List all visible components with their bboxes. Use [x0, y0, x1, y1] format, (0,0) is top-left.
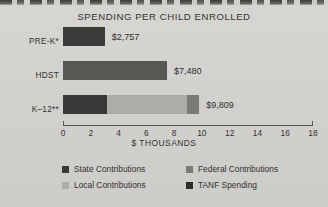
legend-item-federal[interactable]: Federal Contributions: [186, 164, 302, 174]
bar-pre-k[interactable]: [63, 27, 105, 46]
category-label-k-12: K–12**: [32, 105, 59, 114]
bar-value-label: $7,480: [174, 66, 202, 76]
plot-area: $2,757$7,480$9,809 024681012141618: [63, 26, 313, 126]
legend-swatch-tanf-icon: [186, 182, 193, 189]
x-tick-4: 4: [116, 128, 121, 138]
chart-title: SPENDING PER CHILD ENROLLED: [0, 11, 328, 22]
x-tick-0: 0: [61, 128, 66, 138]
x-tick-12: 12: [225, 128, 234, 138]
legend-item-local[interactable]: Local Contributions: [62, 180, 186, 190]
legend-label: Federal Contributions: [198, 164, 278, 174]
legend-label: TANF Spending: [198, 180, 257, 190]
cropped-strip-fade: [0, 0, 328, 6]
x-tick-2: 2: [88, 128, 93, 138]
x-axis-title: $ THOUSANDS: [0, 138, 328, 148]
chart-page: SPENDING PER CHILD ENROLLED $2,757$7,480…: [0, 0, 328, 207]
cropped-content-strip: [0, 0, 328, 6]
x-tick-8: 8: [172, 128, 177, 138]
bar-row: $9,809: [63, 95, 313, 114]
legend-swatch-state-icon: [62, 166, 69, 173]
category-label-pre-k: PRE-K*: [29, 37, 59, 46]
legend-label: State Contributions: [74, 164, 145, 174]
x-tick-10: 10: [197, 128, 206, 138]
x-tick-16: 16: [281, 128, 290, 138]
category-label-hdst: HDST: [36, 71, 60, 80]
x-axis-cap-right: [312, 121, 313, 126]
x-tick-14: 14: [253, 128, 262, 138]
legend-swatch-federal-icon: [186, 166, 193, 173]
legend-item-tanf[interactable]: TANF Spending: [186, 180, 302, 190]
bar-segment-state[interactable]: [63, 95, 107, 114]
x-tick-18: 18: [308, 128, 317, 138]
bar-k-12[interactable]: [63, 95, 199, 114]
bar-segment-hdst[interactable]: [63, 61, 167, 80]
bar-segment-prek[interactable]: [63, 27, 105, 46]
x-tick-6: 6: [144, 128, 149, 138]
bar-segment-local[interactable]: [107, 95, 186, 114]
bar-hdst[interactable]: [63, 61, 167, 80]
x-axis-cap-left: [63, 121, 64, 126]
x-axis-line: [63, 125, 313, 126]
legend-item-state[interactable]: State Contributions: [62, 164, 186, 174]
legend-swatch-local-icon: [62, 182, 69, 189]
bar-value-label: $2,757: [112, 32, 140, 42]
legend-label: Local Contributions: [74, 180, 146, 190]
bar-row: $2,757: [63, 27, 313, 46]
bar-segment-federal[interactable]: [187, 95, 200, 114]
chart-legend: State ContributionsFederal Contributions…: [62, 161, 302, 193]
bar-row: $7,480: [63, 61, 313, 80]
bar-value-label: $9,809: [206, 100, 234, 110]
